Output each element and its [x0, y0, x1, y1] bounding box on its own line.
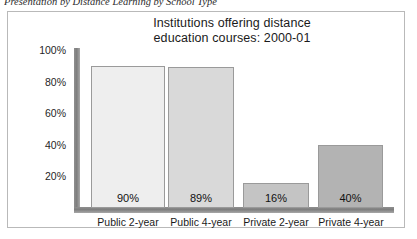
bar-public-4-year[interactable]: 89% [168, 67, 234, 208]
bar-chart-plot: 100% 80% 60% 40% 20% 90% 89% 16% 40% Pub… [0, 0, 417, 239]
y-axis-tick-label: 20% [22, 170, 66, 182]
x-axis-category-label: Public 4-year [161, 216, 241, 228]
x-axis-category-label: Private 2-year [236, 216, 316, 228]
y-axis-tick-label: 80% [22, 76, 66, 88]
x-axis-category-label: Public 2-year [88, 216, 168, 228]
bar-private-2-year[interactable]: 16% [243, 183, 309, 208]
bar-value-label: 90% [92, 192, 164, 204]
bar-value-label: 16% [244, 192, 308, 204]
y-axis-tick-label: 40% [22, 139, 66, 151]
bar-value-label: 89% [169, 192, 233, 204]
y-axis-tick-label: 60% [22, 107, 66, 119]
bar-value-label: 40% [319, 192, 382, 204]
bar-public-2-year[interactable]: 90% [91, 66, 165, 208]
y-axis-tick-label: 100% [22, 44, 66, 56]
x-axis-category-label: Private 4-year [311, 216, 391, 228]
y-axis [74, 48, 80, 210]
bar-private-4-year[interactable]: 40% [318, 145, 383, 208]
